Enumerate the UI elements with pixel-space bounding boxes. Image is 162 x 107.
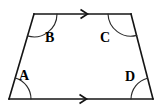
trapezoid-figure: A B C D bbox=[0, 0, 162, 107]
figure-canvas bbox=[0, 0, 162, 107]
angle-label-C: C bbox=[100, 31, 110, 45]
angle-label-D: D bbox=[125, 70, 135, 84]
parallel-markers bbox=[80, 10, 88, 104]
angle-label-A: A bbox=[19, 69, 29, 83]
edge-left-side bbox=[9, 14, 34, 99]
edge-right-side bbox=[131, 14, 153, 99]
angle-label-B: B bbox=[45, 31, 54, 45]
trapezoid-outline bbox=[9, 14, 153, 99]
angle-arcs bbox=[15, 14, 147, 99]
